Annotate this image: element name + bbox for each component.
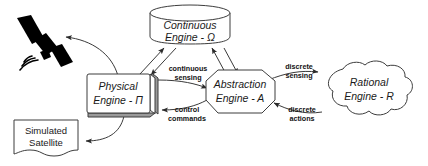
discrete-sensing-line1: discrete: [285, 62, 313, 71]
edge-physical-to-satellite: [66, 37, 118, 76]
simulated-satellite-label-line2: Satellite: [29, 137, 63, 148]
continuous-sensing-line1: continuous: [169, 64, 208, 73]
rational-engine-label-line1: Rational: [350, 76, 389, 88]
rational-engine-label-line2: Engine - R: [344, 90, 394, 102]
edge-label-discrete-sensing: discrete sensing: [285, 62, 313, 80]
abstraction-engine-label-line1: Abstraction: [213, 78, 267, 90]
discrete-sensing-line2: sensing: [285, 71, 312, 80]
edge-label-control-commands: control commands: [168, 105, 206, 123]
simulated-satellite-label-line1: Simulated: [25, 125, 67, 136]
control-commands-line1: control: [175, 105, 199, 114]
abstraction-engine-label-line2: Engine - A: [216, 92, 265, 104]
edge-label-continuous-sensing: continuous sensing: [169, 64, 208, 82]
satellite-icon: [17, 15, 73, 70]
node-abstraction-engine[interactable]: Abstraction Engine - A: [206, 70, 275, 113]
physical-engine-label-line1: Physical: [98, 80, 138, 92]
continuous-engine-label-line1: Continuous: [163, 19, 217, 31]
discrete-actions-line1: discrete: [288, 105, 316, 114]
node-physical-engine[interactable]: Physical Engine - Π: [87, 74, 158, 117]
diagram-canvas: Continuous Engine - Ω Physical Engine - …: [0, 0, 428, 166]
edge-label-discrete-actions: discrete actions: [288, 105, 316, 123]
node-simulated-satellite[interactable]: Simulated Satellite: [14, 120, 78, 156]
control-commands-line2: commands: [168, 114, 206, 123]
engine-architecture-diagram: Continuous Engine - Ω Physical Engine - …: [0, 0, 428, 166]
edge-physical-to-continuous: [140, 48, 164, 74]
continuous-engine-label-line2: Engine - Ω: [165, 31, 215, 43]
node-continuous-engine[interactable]: Continuous Engine - Ω: [150, 5, 230, 44]
physical-engine-label-line2: Engine - Π: [93, 94, 143, 106]
continuous-sensing-line2: sensing: [174, 73, 201, 82]
discrete-actions-line2: actions: [289, 114, 314, 123]
edge-physical-to-simulated-satellite: [86, 116, 124, 141]
node-rational-engine[interactable]: Rational Engine - R: [328, 61, 412, 115]
